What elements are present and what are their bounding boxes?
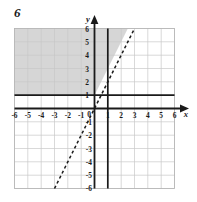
- coordinate-plane: x y 0 -6 -5 -4 -3 -2 -1 1 2 3 4 5 6 6 5 …: [0, 0, 197, 202]
- x-tick-label: -5: [25, 111, 31, 120]
- y-tick-label: -6: [86, 184, 92, 193]
- x-tick-label: -6: [11, 111, 17, 120]
- x-tick-label: 6: [173, 111, 177, 120]
- y-tick-label: 6: [85, 25, 89, 34]
- y-tick-label: 5: [85, 38, 89, 47]
- y-tick-label: -2: [86, 131, 92, 140]
- y-tick-label: 4: [85, 51, 89, 60]
- graph-figure: 6: [0, 0, 197, 202]
- y-tick-label: -1: [86, 118, 92, 127]
- y-tick-label: -3: [86, 145, 92, 154]
- y-tick-label: -4: [86, 158, 92, 167]
- y-tick-label: -5: [86, 171, 92, 180]
- x-tick-label: 3: [133, 111, 137, 120]
- x-tick-label: 1: [106, 111, 110, 120]
- y-tick-label: 2: [85, 78, 89, 87]
- x-tick-label: -2: [65, 111, 71, 120]
- y-axis-label: y: [85, 14, 90, 24]
- x-tick-label: -1: [78, 111, 84, 120]
- x-tick-label: 2: [119, 111, 123, 120]
- x-tick-label: 4: [146, 111, 150, 120]
- y-axis-arrow-icon: [91, 15, 99, 24]
- x-tick-label: -4: [38, 111, 44, 120]
- x-tick-label: -3: [51, 111, 57, 120]
- x-axis-label: x: [183, 109, 189, 119]
- problem-number: 6: [14, 6, 21, 19]
- x-tick-label: 5: [159, 111, 163, 120]
- y-tick-label: 1: [85, 91, 89, 100]
- y-tick-label: 3: [85, 65, 89, 74]
